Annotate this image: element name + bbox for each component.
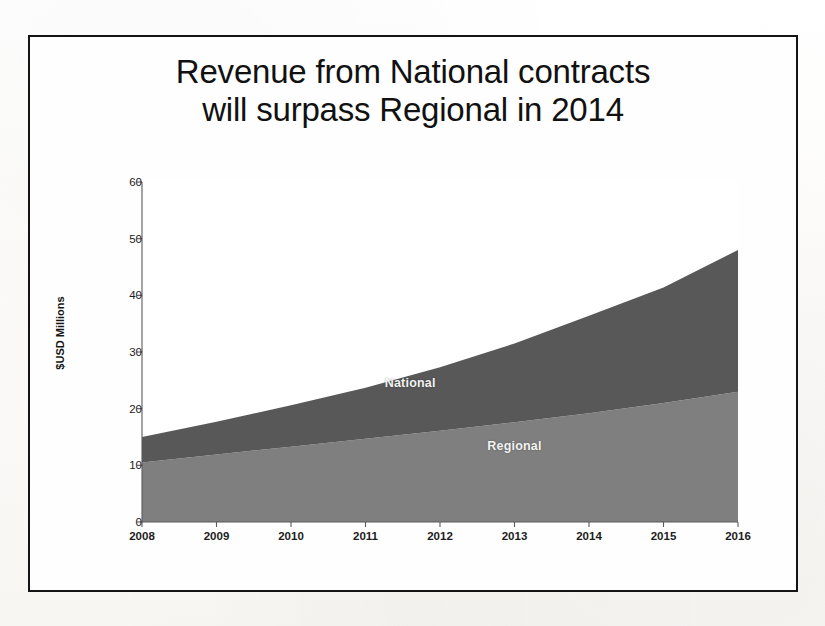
x-axis-tick-label: 2014 [576,530,602,542]
x-axis-tick-label: 2015 [651,530,677,542]
x-axis-tick-label: 2016 [725,530,751,542]
x-axis-tick-label: 2013 [502,530,528,542]
series-label-national: National [385,376,436,390]
x-axis-tick-label: 2009 [204,530,230,542]
x-axis-tick-label: 2011 [353,530,378,542]
slide-frame: Revenue from National contracts will sur… [28,35,798,592]
x-axis-tick-label: 2008 [129,530,155,542]
stacked-area-chart: 0102030405060 20082009201020112012201320… [30,37,800,594]
x-axis-tick-label: 2010 [278,530,304,542]
series-label-regional: Regional [487,439,541,453]
x-axis-tick-labels: 200820092010201120122013201420152016 [30,37,800,594]
y-axis-title: $USD Millions [54,273,66,393]
x-axis-tick-label: 2012 [427,530,453,542]
